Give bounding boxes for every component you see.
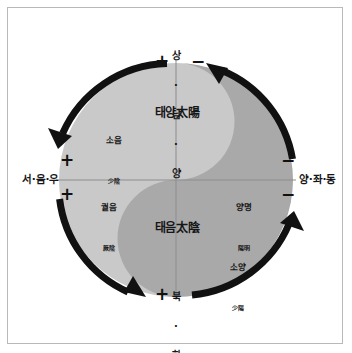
axis-label-bottom: 북 · 하 · 음 bbox=[168, 272, 184, 353]
axis-label-top-char-3: 양 bbox=[168, 169, 184, 179]
quadrant-label-taiyin: 태음太陰 bbox=[144, 222, 210, 234]
shaoyang-hanja: 少陽 bbox=[218, 305, 258, 312]
axis-label-right: 양·좌·동 bbox=[299, 174, 336, 185]
axis-label-bottom-dot-1: · bbox=[168, 322, 184, 332]
sign-bottom-right: − bbox=[191, 286, 205, 303]
sign-bottom-left: + bbox=[155, 286, 169, 303]
axis-label-top-dot-2: · bbox=[168, 140, 184, 150]
shaoyin-korean: 소음 bbox=[94, 136, 134, 145]
quadrant-label-taiyang: 태양太陽 bbox=[144, 107, 210, 119]
sign-right-lower: − bbox=[281, 186, 295, 203]
axis-label-top-char-1: 상 bbox=[168, 51, 184, 61]
axis-label-bottom-char-1: 북 bbox=[168, 292, 184, 302]
sign-left-lower: + bbox=[60, 186, 74, 203]
quadrant-label-shaoyang: 소양 少陽 bbox=[218, 230, 258, 345]
axis-label-left: 서·음·우 bbox=[22, 174, 59, 185]
sign-top-left: + bbox=[155, 53, 169, 70]
axis-label-top-dot-1: · bbox=[168, 81, 184, 91]
yangming-korean: 양명 bbox=[224, 203, 264, 212]
taiji-diagram: 상 · 남 · 양 북 · 하 · 음 서·음·우 양·좌·동 + − + + … bbox=[0, 0, 352, 353]
sign-left-upper: + bbox=[60, 152, 74, 169]
shaoyang-korean: 소양 bbox=[218, 263, 258, 272]
quadrant-label-jueyin: 궐음 厥陰 bbox=[89, 170, 129, 285]
sign-top-right: − bbox=[191, 53, 205, 70]
jueyin-hanja: 厥陰 bbox=[89, 245, 129, 252]
sign-right-upper: − bbox=[281, 152, 295, 169]
jueyin-korean: 궐음 bbox=[89, 203, 129, 212]
